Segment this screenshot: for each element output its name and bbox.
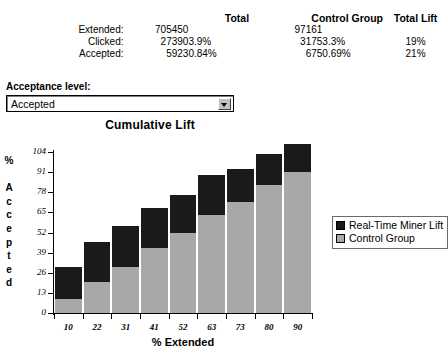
- bar-segment-real-time-miner-lift: [112, 226, 139, 266]
- clicked-total-pct: 3.9%: [188, 36, 249, 48]
- bar-segment-real-time-miner-lift: [198, 175, 225, 215]
- summary-header-control-group: Control Group: [270, 12, 383, 24]
- acceptance-level-control: Acceptance level: Accepted: [6, 81, 236, 112]
- acceptance-level-label: Acceptance level:: [6, 81, 236, 93]
- x-axis-tick-label: 52: [170, 322, 196, 332]
- summary-header-blank: [0, 12, 124, 24]
- x-axis-tick-label: 90: [285, 322, 311, 332]
- bar-segment-control-group: [284, 172, 311, 313]
- extended-control-count: 97161: [270, 24, 322, 36]
- y-axis-tick-label: 0: [24, 308, 46, 317]
- x-axis-tick-label: 73: [227, 322, 253, 332]
- x-axis-tick: [140, 313, 141, 319]
- y-axis-tick: [48, 273, 54, 274]
- x-axis-tick-label: 63: [199, 322, 225, 332]
- bar-segment-real-time-miner-lift: [256, 154, 283, 185]
- summary-header-total: Total: [124, 12, 250, 24]
- chart-bar: [227, 152, 254, 313]
- y-axis-tick-label: 13: [24, 288, 46, 297]
- accepted-total-count: 5923: [124, 48, 189, 60]
- summary-header-row: Total Control Group Total Lift: [0, 12, 448, 24]
- legend-swatch-control: [336, 234, 345, 243]
- x-axis-tick: [255, 313, 256, 319]
- extended-total-lift: [383, 24, 448, 36]
- x-axis-tick-label: 41: [141, 322, 167, 332]
- chart-bar: [284, 152, 311, 313]
- acceptance-level-select[interactable]: Accepted: [6, 95, 234, 112]
- y-axis-tick: [48, 152, 54, 153]
- chart-bar: [84, 152, 111, 313]
- clicked-control-count: 3175: [270, 36, 322, 48]
- chart-bar: [170, 152, 197, 313]
- x-axis-line: [53, 313, 313, 314]
- plot-area: [54, 152, 312, 313]
- accepted-total-pct: 0.84%: [188, 48, 249, 60]
- table-row: Clicked: 27390 3.9% 3175 3.3% 19%: [0, 36, 448, 48]
- bar-segment-real-time-miner-lift: [84, 242, 111, 282]
- extended-total-pct: [188, 24, 249, 36]
- x-axis-tick: [83, 313, 84, 319]
- chevron-down-icon[interactable]: [218, 98, 231, 110]
- bar-segment-real-time-miner-lift: [55, 267, 82, 300]
- y-axis-labels: 013263952657891104: [0, 140, 46, 340]
- row-gap: [249, 24, 270, 36]
- x-axis-tick: [226, 313, 227, 319]
- accepted-control-pct: 0.69%: [322, 48, 383, 60]
- chart-bar: [112, 152, 139, 313]
- x-axis-tick: [283, 313, 284, 319]
- row-gap: [249, 36, 270, 48]
- clicked-total-count: 27390: [124, 36, 189, 48]
- y-axis-tick-label: 39: [24, 248, 46, 257]
- chart-bar: [256, 152, 283, 313]
- x-axis-tick: [197, 313, 198, 319]
- accepted-control-count: 675: [270, 48, 322, 60]
- table-row: Accepted: 5923 0.84% 675 0.69% 21%: [0, 48, 448, 60]
- bar-segment-real-time-miner-lift: [284, 144, 311, 172]
- y-axis-tick-label: 78: [24, 187, 46, 196]
- clicked-total-lift: 19%: [383, 36, 448, 48]
- y-axis-tick: [48, 192, 54, 193]
- y-axis-tick: [48, 293, 54, 294]
- bar-segment-control-group: [141, 248, 168, 313]
- extended-total-count: 705450: [124, 24, 189, 36]
- summary-header-gap: [249, 12, 270, 24]
- x-axis-tick: [169, 313, 170, 319]
- row-label-clicked: Clicked:: [0, 36, 124, 48]
- row-label-accepted: Accepted:: [0, 48, 124, 60]
- y-axis-tick: [48, 233, 54, 234]
- x-axis-tick-label: 10: [55, 322, 81, 332]
- table-row: Extended: 705450 97161: [0, 24, 448, 36]
- bar-segment-control-group: [256, 185, 283, 313]
- chart-bar: [55, 152, 82, 313]
- bar-segment-control-group: [112, 267, 139, 313]
- bar-segment-control-group: [170, 233, 197, 314]
- bar-segment-control-group: [84, 282, 111, 313]
- y-axis-tick-label: 91: [24, 167, 46, 176]
- chart-bar: [141, 152, 168, 313]
- x-axis-title: % Extended: [54, 336, 312, 348]
- bar-segment-control-group: [198, 215, 225, 313]
- bar-segment-real-time-miner-lift: [227, 169, 254, 202]
- chart-bar: [198, 152, 225, 313]
- chart-legend: Real-Time Miner Lift Control Group: [332, 216, 448, 249]
- accepted-total-lift: 21%: [383, 48, 448, 60]
- legend-item-real-time-miner-lift: Real-Time Miner Lift: [336, 219, 443, 232]
- x-axis-tick: [312, 313, 313, 319]
- legend-label-lift: Real-Time Miner Lift: [349, 219, 443, 232]
- row-label-extended: Extended:: [0, 24, 124, 36]
- legend-label-control: Control Group: [349, 232, 415, 245]
- bar-segment-control-group: [55, 299, 82, 313]
- y-axis-tick: [48, 172, 54, 173]
- clicked-control-pct: 3.3%: [322, 36, 383, 48]
- y-axis-tick-label: 26: [24, 268, 46, 277]
- x-axis-tick-label: 22: [84, 322, 110, 332]
- x-axis-tick: [111, 313, 112, 319]
- legend-swatch-lift: [336, 221, 345, 230]
- extended-control-pct: [322, 24, 383, 36]
- cumulative-lift-chart: % Accepted 013263952657891104 % Extended…: [0, 140, 448, 360]
- y-axis-tick: [48, 212, 54, 213]
- y-axis-tick-label: 65: [24, 207, 46, 216]
- legend-item-control-group: Control Group: [336, 232, 443, 245]
- y-axis-tick: [48, 253, 54, 254]
- chart-title: Cumulative Lift: [0, 118, 300, 132]
